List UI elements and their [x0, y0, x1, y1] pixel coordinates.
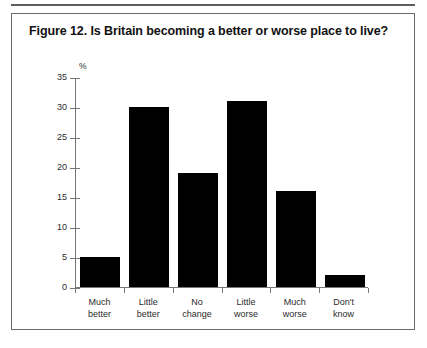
top-divider-rule — [11, 4, 415, 6]
x-axis-tick — [222, 288, 223, 293]
x-axis-tick — [75, 288, 76, 293]
x-axis-category-label-line: know — [319, 309, 368, 321]
x-axis-tick — [319, 288, 320, 293]
y-axis-tick-label: 5 — [41, 252, 67, 262]
x-axis-category-label-line: Little — [124, 297, 173, 309]
x-axis-category-label: Muchbetter — [75, 297, 124, 320]
y-axis-tick-label: 0 — [41, 282, 67, 292]
y-axis-tick-label: 35 — [41, 72, 67, 82]
page-title: Figure 12. Is Britain becoming a better … — [29, 24, 388, 38]
x-axis-category-label-line: better — [75, 309, 124, 321]
y-axis-tick-inner — [76, 288, 80, 289]
x-axis-tick — [124, 288, 125, 293]
x-axis-tick — [173, 288, 174, 293]
x-axis-tick — [368, 288, 369, 293]
y-axis-tick-label: 10 — [41, 222, 67, 232]
x-axis-category-label: Don'tknow — [319, 297, 368, 320]
bar — [80, 257, 120, 287]
y-axis-tick-label: 20 — [41, 162, 67, 172]
bar — [178, 173, 218, 287]
y-axis-tick — [70, 198, 75, 199]
y-axis-tick — [70, 108, 75, 109]
y-axis-tick-label: 15 — [41, 192, 67, 202]
x-axis-category-label-line: Don't — [319, 297, 368, 309]
bar — [325, 275, 365, 287]
x-axis-category-label-line: Much — [270, 297, 319, 309]
x-axis-category-label-line: Little — [222, 297, 271, 309]
bar-chart-plot-area: % 05101520253035 MuchbetterLittlebetterN… — [75, 65, 370, 305]
x-axis-tick — [270, 288, 271, 293]
x-axis-category-label-line: better — [124, 309, 173, 321]
x-axis-category-label-line: Much — [75, 297, 124, 309]
bar — [129, 107, 169, 287]
x-axis-category-label: Muchworse — [270, 297, 319, 320]
x-axis-category-label: Nochange — [173, 297, 222, 320]
x-axis-category-label: Littleworse — [222, 297, 271, 320]
y-axis-tick — [70, 258, 75, 259]
bar-series — [76, 65, 369, 287]
x-axis-category-label-line: worse — [222, 309, 271, 321]
x-axis-category-label-line: No — [173, 297, 222, 309]
x-axis-category-label-line: worse — [270, 309, 319, 321]
x-axis-category-label-line: change — [173, 309, 222, 321]
figure-container: Figure 12. Is Britain becoming a better … — [11, 13, 415, 330]
y-axis-tick — [70, 138, 75, 139]
y-axis-tick — [70, 228, 75, 229]
y-axis-tick — [70, 168, 75, 169]
bar — [227, 101, 267, 287]
y-axis-tick — [70, 78, 75, 79]
y-axis-tick-label: 30 — [41, 102, 67, 112]
y-axis-tick-label: 25 — [41, 132, 67, 142]
bar — [276, 191, 316, 287]
x-axis-category-label: Littlebetter — [124, 297, 173, 320]
